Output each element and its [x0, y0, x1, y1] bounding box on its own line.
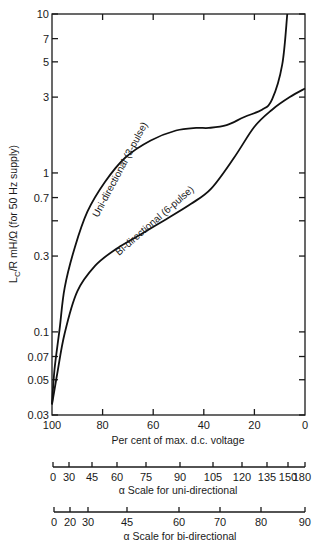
y-tick-label: 0.7	[34, 192, 49, 204]
chart-canvas: 0.030.050.070.10.30.7135710 100806040200…	[0, 0, 328, 550]
bi-scale-title: α Scale for bi-directional	[124, 530, 237, 542]
bi-directional-curve	[52, 89, 305, 405]
y-tick-label: 5	[43, 56, 49, 68]
uni-scale-title: α Scale for uni-directional	[119, 484, 238, 496]
scale-tick-label: 180	[293, 471, 311, 483]
y-tick-label: 0.05	[28, 374, 49, 386]
scale-tick-label: 45	[121, 516, 133, 528]
y-tick-label: 7	[43, 33, 49, 45]
x-tick-label: 0	[302, 419, 308, 431]
scale-tick-label: 135	[258, 471, 276, 483]
alpha-scale-bi-directional: 020304560708090	[51, 507, 311, 528]
uni-directional-curve-label: Uni-directional (3-pulse)	[90, 120, 150, 219]
scale-tick-label: 105	[204, 471, 222, 483]
scale-tick-label: 60	[111, 471, 123, 483]
y-tick-label: 0.1	[34, 326, 49, 338]
y-tick-label: 0.07	[28, 351, 49, 363]
x-axis-title: Per cent of max. d.c. voltage	[111, 434, 244, 446]
scale-tick-label: 70	[214, 516, 226, 528]
y-tick-label: 1	[43, 167, 49, 179]
x-tick-label: 20	[248, 419, 260, 431]
scale-tick-label: 30	[63, 471, 75, 483]
x-tick-label: 100	[43, 419, 61, 431]
scale-tick-label: 120	[233, 471, 251, 483]
scale-tick-label: 45	[86, 471, 98, 483]
scale-tick-label: 80	[255, 516, 267, 528]
y-tick-label: 3	[43, 91, 49, 103]
y-axis-title: LC/R mH/Ω (for 50 Hz supply)	[7, 145, 22, 283]
x-tick-label: 40	[198, 419, 210, 431]
scale-tick-label: 60	[173, 516, 185, 528]
scale-tick-label: 0	[50, 471, 56, 483]
scale-tick-label: 30	[82, 516, 94, 528]
bi-directional-curve-label: Bi-directional (6-pulse)	[113, 184, 196, 258]
scale-tick-label: 90	[174, 471, 186, 483]
alpha-scale-uni-directional: 03045607590105120135150180	[50, 462, 311, 483]
y-tick-label: 10	[37, 8, 49, 20]
x-tick-label: 80	[96, 419, 108, 431]
curves	[52, 14, 305, 404]
scale-tick-label: 20	[64, 516, 76, 528]
x-tick-label: 60	[147, 419, 159, 431]
svg-text:LC/R mH/Ω (for 50 Hz supply): LC/R mH/Ω (for 50 Hz supply)	[7, 145, 22, 283]
scale-tick-label: 90	[299, 516, 311, 528]
scale-tick-label: 0	[51, 516, 57, 528]
y-tick-label: 0.3	[34, 250, 49, 262]
scale-tick-label: 75	[140, 471, 152, 483]
